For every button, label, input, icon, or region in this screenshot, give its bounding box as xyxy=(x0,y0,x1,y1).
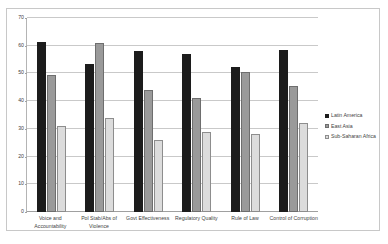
category-label: Control of Corruption xyxy=(269,215,318,230)
bar[interactable] xyxy=(144,90,153,212)
bar[interactable] xyxy=(95,43,104,212)
category-label: Govt Effectiveness xyxy=(123,215,172,230)
legend-label: Latin America xyxy=(331,113,362,118)
chart-frame: 010203040506070 Voice and Accountability… xyxy=(6,8,380,231)
y-axis-tick-label: 60 xyxy=(18,43,24,48)
bar[interactable] xyxy=(47,75,56,212)
bar[interactable] xyxy=(182,54,191,212)
bars-layer xyxy=(27,18,318,212)
bar[interactable] xyxy=(251,134,260,212)
y-axis-tick-label: 50 xyxy=(18,71,24,76)
legend-swatch-icon xyxy=(325,135,329,139)
legend-swatch-icon xyxy=(325,124,329,128)
bar-group xyxy=(173,18,222,212)
bar[interactable] xyxy=(202,132,211,212)
bar-group xyxy=(76,18,125,212)
legend-item[interactable]: Latin America xyxy=(325,113,376,118)
bar[interactable] xyxy=(192,98,201,212)
y-axis-tick-label: 10 xyxy=(18,182,24,187)
legend-item[interactable]: East Asia xyxy=(325,124,376,129)
legend-label: Sub-Saharan Africa xyxy=(331,134,376,139)
category-axis-labels: Voice and AccountabilityPol Stab/Abs of … xyxy=(26,215,318,230)
bar[interactable] xyxy=(57,126,66,212)
legend-label: East Asia xyxy=(331,124,353,129)
y-axis-tick-label: 30 xyxy=(18,126,24,131)
bar[interactable] xyxy=(154,140,163,212)
y-axis-tick-label: 0 xyxy=(21,209,24,214)
y-axis-tick-label: 40 xyxy=(18,99,24,104)
category-label: Pol Stab/Abs of Violence xyxy=(75,215,124,230)
plot-area: 010203040506070 xyxy=(26,18,318,212)
category-label: Rule of Law xyxy=(221,215,270,230)
bar-group xyxy=(27,18,76,212)
y-axis-tick-label: 70 xyxy=(18,15,24,20)
category-label: Voice and Accountability xyxy=(26,215,75,230)
bar[interactable] xyxy=(299,123,308,212)
bar[interactable] xyxy=(289,86,298,212)
bar[interactable] xyxy=(85,64,94,212)
bar-group xyxy=(221,18,270,212)
bar[interactable] xyxy=(134,51,143,212)
bar[interactable] xyxy=(37,42,46,212)
bar-group xyxy=(270,18,319,212)
y-axis-tick-mark xyxy=(25,212,27,213)
chart-legend: Latin AmericaEast AsiaSub-Saharan Africa xyxy=(325,113,376,140)
bar[interactable] xyxy=(231,67,240,213)
bar[interactable] xyxy=(241,72,250,212)
legend-swatch-icon xyxy=(325,114,329,118)
legend-item[interactable]: Sub-Saharan Africa xyxy=(325,134,376,139)
bar-group xyxy=(124,18,173,212)
y-axis-tick-label: 20 xyxy=(18,154,24,159)
category-label: Regulatory Quality xyxy=(172,215,221,230)
bar[interactable] xyxy=(279,50,288,212)
bar[interactable] xyxy=(105,118,114,212)
